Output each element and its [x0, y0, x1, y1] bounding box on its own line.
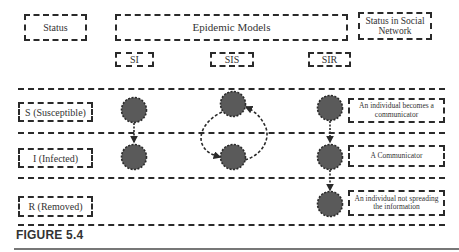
- sir-susceptible-node: [318, 96, 343, 121]
- si-susceptible-node: [122, 98, 147, 123]
- caption-rule: [14, 248, 459, 250]
- social-status-susceptible-box: An individual becomes a communicator: [348, 98, 445, 123]
- sis-model-nodes: [201, 92, 267, 170]
- sis-susceptible-node: [221, 92, 246, 117]
- sis-s-to-i-arrow: [201, 112, 222, 157]
- sir-removed-node: [318, 192, 343, 217]
- social-status-infected-box: A Communicator: [348, 145, 445, 167]
- sir-model-nodes: [318, 96, 343, 217]
- sir-infected-node: [318, 145, 343, 170]
- si-model-nodes: [122, 98, 147, 170]
- sis-infected-node: [221, 145, 246, 170]
- figure-caption: FIGURE 5.4: [16, 228, 83, 242]
- si-infected-node: [122, 145, 147, 170]
- social-status-susceptible: An individual becomes a communicator: [353, 102, 440, 119]
- social-status-removed: An individual not spreading the informat…: [353, 195, 440, 212]
- social-status-infected: A Communicator: [371, 152, 423, 160]
- sis-i-to-s-arrow: [245, 107, 267, 160]
- social-status-removed-box: An individual not spreading the informat…: [348, 190, 445, 216]
